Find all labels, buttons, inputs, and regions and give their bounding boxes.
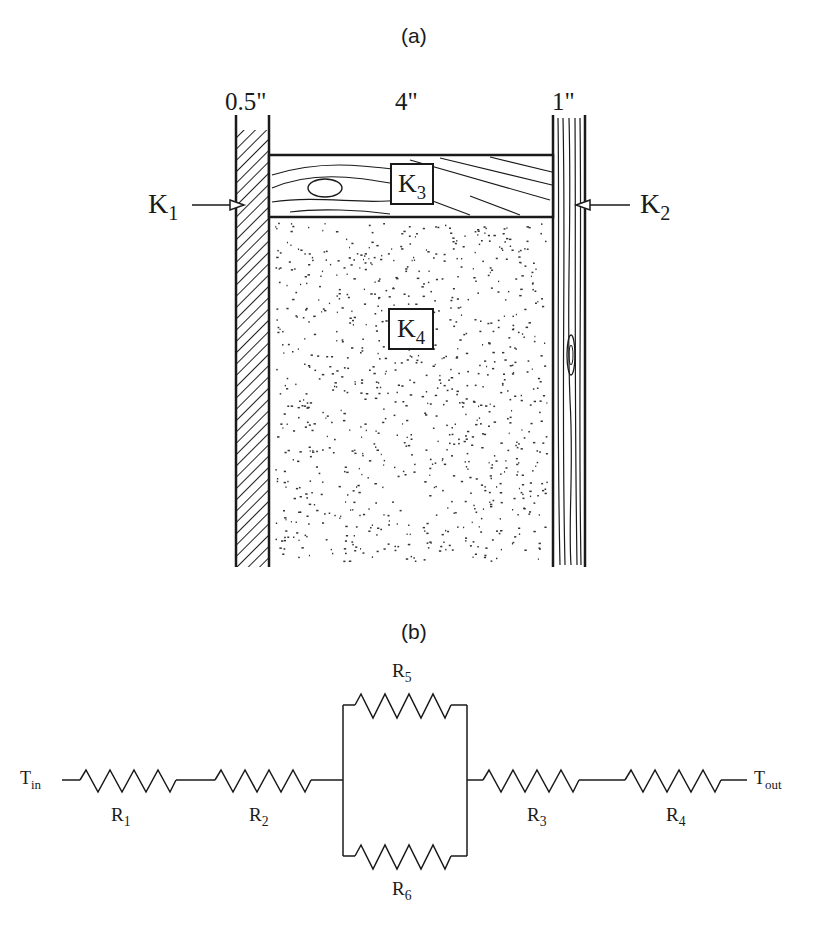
caption-b: (b) xyxy=(401,620,427,644)
caption-a: (a) xyxy=(401,24,427,48)
thermal-resistance-circuit xyxy=(62,694,747,869)
dimension-right: 1" xyxy=(552,88,575,116)
resistor-r2-icon xyxy=(215,770,311,792)
dimension-left: 0.5" xyxy=(225,88,266,116)
dimension-middle: 4" xyxy=(395,88,418,116)
resistor-r5-icon xyxy=(355,694,451,718)
label-r4: R4 xyxy=(666,804,686,826)
wood-layer-k2 xyxy=(553,115,585,567)
diagram-canvas xyxy=(0,0,831,928)
insulation-fill-k4 xyxy=(275,223,548,562)
arrow-k2-icon xyxy=(576,200,630,210)
resistor-r1-icon xyxy=(80,770,176,792)
label-t-in: Tin xyxy=(20,768,41,789)
resistor-r3-icon xyxy=(483,770,579,792)
label-k4: K4 xyxy=(388,308,434,350)
hatched-layer-k1 xyxy=(236,130,269,567)
label-t-out: Tout xyxy=(754,768,782,789)
label-r6: R6 xyxy=(392,878,412,900)
resistor-r6-icon xyxy=(355,845,451,869)
resistor-r4-icon xyxy=(625,770,721,792)
label-r1: R1 xyxy=(111,804,131,826)
label-r3: R3 xyxy=(527,804,547,826)
label-k2: K2 xyxy=(640,188,670,220)
arrow-k1-icon xyxy=(192,200,244,210)
label-r2: R2 xyxy=(249,804,269,826)
label-r5: R5 xyxy=(392,660,412,682)
label-k1: K1 xyxy=(148,188,178,220)
label-k3: K3 xyxy=(390,163,434,205)
